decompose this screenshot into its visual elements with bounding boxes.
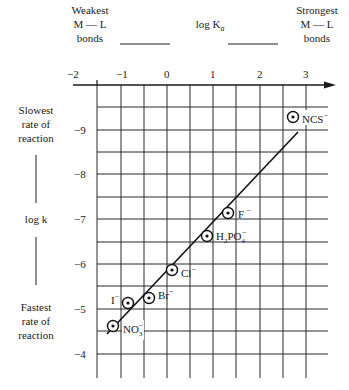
- br-text: Br: [158, 289, 169, 301]
- data-points: [108, 112, 299, 332]
- point-i: [123, 298, 134, 309]
- point-label-h2po4: H2PO4−: [216, 227, 247, 247]
- no3-text: NO: [123, 323, 139, 335]
- point-f: [223, 208, 234, 219]
- cl-text: Cl: [181, 267, 191, 279]
- point-label-br: Br−: [158, 286, 174, 301]
- ncs-text: NCS: [302, 113, 323, 125]
- point-ncs: [288, 112, 299, 123]
- plot-area: [0, 0, 349, 390]
- x-axis-arrow-icon: [324, 82, 336, 89]
- point-label-i: I−: [111, 291, 119, 306]
- point-label-cl: Cl−: [181, 264, 196, 279]
- x-axis: [73, 80, 336, 89]
- point-label-f: F −: [238, 205, 251, 220]
- point-label-no3: NO3−: [122, 320, 144, 340]
- point-no3: [108, 321, 119, 332]
- point-br: [144, 293, 155, 304]
- h2po4-text: H: [216, 230, 224, 242]
- point-label-ncs: NCS−: [302, 110, 328, 125]
- point-h2po4: [202, 231, 213, 242]
- point-cl: [167, 265, 178, 276]
